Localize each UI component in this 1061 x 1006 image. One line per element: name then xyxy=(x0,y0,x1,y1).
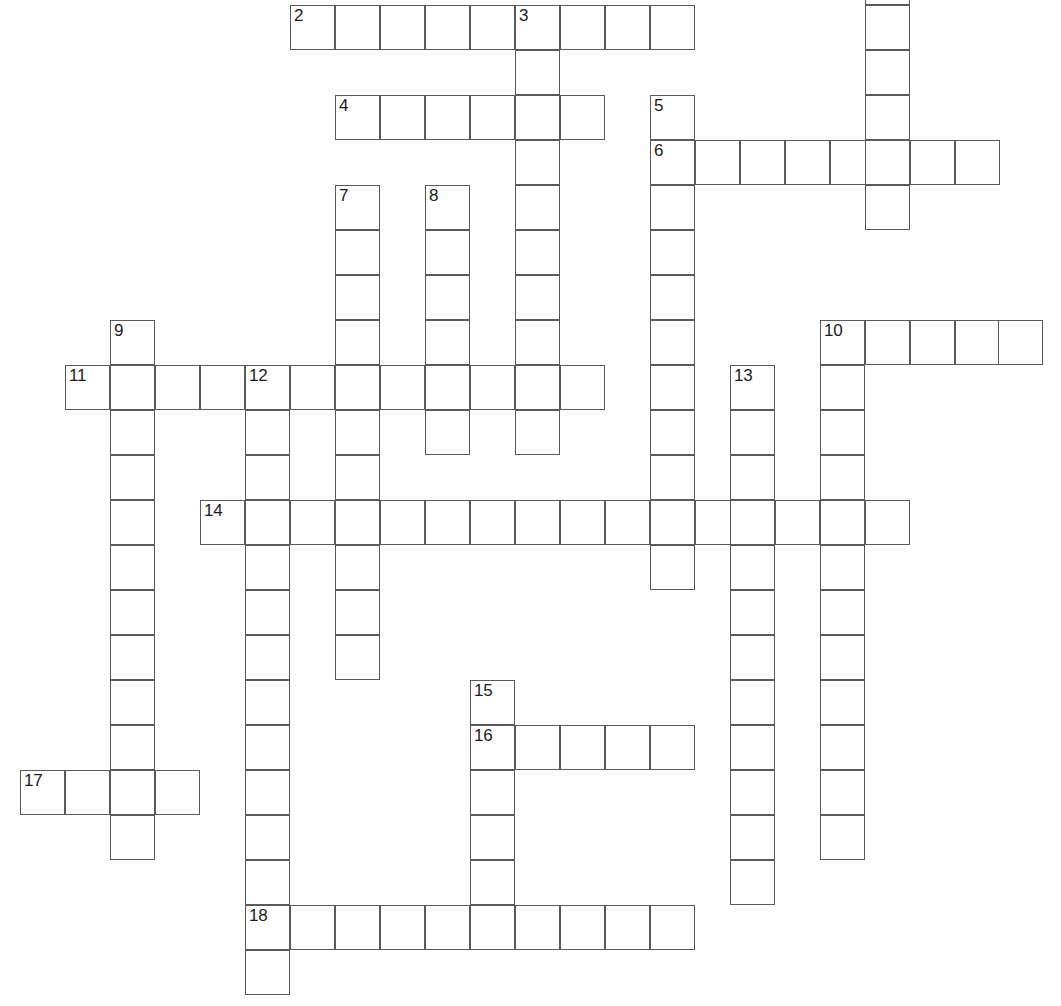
crossword-cell[interactable] xyxy=(515,905,560,950)
crossword-cell[interactable] xyxy=(110,635,155,680)
crossword-cell[interactable] xyxy=(730,815,775,860)
crossword-cell[interactable] xyxy=(245,725,290,770)
crossword-cell[interactable] xyxy=(335,365,380,410)
crossword-cell[interactable] xyxy=(820,725,865,770)
crossword-cell[interactable] xyxy=(820,680,865,725)
crossword-cell[interactable] xyxy=(605,905,650,950)
crossword-cell[interactable] xyxy=(335,545,380,590)
crossword-cell[interactable] xyxy=(425,365,470,410)
crossword-cell[interactable] xyxy=(245,680,290,725)
crossword-cell[interactable] xyxy=(730,545,775,590)
crossword-cell[interactable] xyxy=(335,5,380,50)
crossword-cell[interactable] xyxy=(605,500,650,545)
crossword-cell[interactable] xyxy=(425,5,470,50)
crossword-cell-start-14[interactable]: 14 xyxy=(200,500,245,545)
crossword-cell[interactable] xyxy=(245,860,290,905)
crossword-cell[interactable] xyxy=(820,365,865,410)
crossword-cell[interactable] xyxy=(820,455,865,500)
crossword-cell[interactable] xyxy=(470,95,515,140)
crossword-cell[interactable] xyxy=(865,500,910,545)
crossword-cell[interactable] xyxy=(515,725,560,770)
crossword-cell[interactable] xyxy=(110,455,155,500)
crossword-cell[interactable] xyxy=(820,590,865,635)
crossword-cell[interactable] xyxy=(515,410,560,455)
crossword-cell[interactable] xyxy=(470,815,515,860)
crossword-cell[interactable] xyxy=(650,185,695,230)
crossword-cell[interactable] xyxy=(425,410,470,455)
crossword-cell[interactable] xyxy=(245,770,290,815)
crossword-cell-start-11[interactable]: 11 xyxy=(65,365,110,410)
crossword-cell[interactable] xyxy=(955,140,1000,185)
crossword-cell[interactable] xyxy=(425,230,470,275)
crossword-cell[interactable] xyxy=(650,275,695,320)
crossword-cell[interactable] xyxy=(650,5,695,50)
crossword-cell[interactable] xyxy=(775,500,820,545)
crossword-cell[interactable] xyxy=(65,770,110,815)
crossword-cell[interactable] xyxy=(910,140,955,185)
crossword-cell[interactable] xyxy=(650,500,695,545)
crossword-cell[interactable] xyxy=(650,455,695,500)
crossword-cell[interactable] xyxy=(560,725,605,770)
crossword-cell-start-13[interactable]: 13 xyxy=(730,365,775,410)
crossword-cell[interactable] xyxy=(515,185,560,230)
crossword-cell[interactable] xyxy=(425,275,470,320)
crossword-cell[interactable] xyxy=(245,455,290,500)
crossword-cell-start-7[interactable]: 7 xyxy=(335,185,380,230)
crossword-cell[interactable] xyxy=(335,590,380,635)
crossword-cell[interactable] xyxy=(650,365,695,410)
crossword-cell[interactable] xyxy=(820,500,865,545)
crossword-cell[interactable] xyxy=(110,410,155,455)
crossword-cell[interactable] xyxy=(245,635,290,680)
crossword-cell[interactable] xyxy=(605,5,650,50)
crossword-cell[interactable] xyxy=(155,365,200,410)
crossword-cell[interactable] xyxy=(560,365,605,410)
crossword-cell[interactable] xyxy=(245,500,290,545)
crossword-cell[interactable] xyxy=(425,905,470,950)
crossword-cell[interactable] xyxy=(740,140,785,185)
crossword-cell-start-16[interactable]: 16 xyxy=(470,725,515,770)
crossword-cell[interactable] xyxy=(335,500,380,545)
crossword-cell-start-4[interactable]: 4 xyxy=(335,95,380,140)
crossword-cell[interactable] xyxy=(470,860,515,905)
crossword-cell[interactable] xyxy=(380,365,425,410)
crossword-cell[interactable] xyxy=(515,140,560,185)
crossword-cell-start-12[interactable]: 12 xyxy=(245,365,290,410)
crossword-cell[interactable] xyxy=(380,500,425,545)
crossword-cell-start-17[interactable]: 17 xyxy=(20,770,65,815)
crossword-cell[interactable] xyxy=(820,545,865,590)
crossword-cell[interactable] xyxy=(515,275,560,320)
crossword-cell[interactable] xyxy=(515,50,560,95)
crossword-cell[interactable] xyxy=(820,770,865,815)
crossword-cell[interactable] xyxy=(290,365,335,410)
crossword-cell[interactable] xyxy=(820,635,865,680)
crossword-cell[interactable] xyxy=(380,5,425,50)
crossword-cell[interactable] xyxy=(650,230,695,275)
crossword-cell[interactable] xyxy=(730,680,775,725)
crossword-cell[interactable] xyxy=(820,815,865,860)
crossword-cell[interactable] xyxy=(865,320,910,365)
crossword-cell[interactable] xyxy=(560,905,605,950)
crossword-cell-start-2[interactable]: 2 xyxy=(290,5,335,50)
crossword-cell[interactable] xyxy=(650,410,695,455)
crossword-cell-start-10[interactable]: 10 xyxy=(820,320,865,365)
crossword-cell[interactable] xyxy=(470,5,515,50)
crossword-cell[interactable] xyxy=(335,905,380,950)
crossword-cell[interactable] xyxy=(380,905,425,950)
crossword-cell[interactable] xyxy=(335,410,380,455)
crossword-cell[interactable] xyxy=(470,770,515,815)
crossword-cell[interactable] xyxy=(335,275,380,320)
crossword-cell[interactable] xyxy=(470,500,515,545)
crossword-cell-start-5[interactable]: 5 xyxy=(650,95,695,140)
crossword-cell[interactable] xyxy=(730,500,775,545)
crossword-cell[interactable] xyxy=(605,725,650,770)
crossword-cell[interactable] xyxy=(335,455,380,500)
crossword-cell[interactable] xyxy=(425,320,470,365)
crossword-cell[interactable] xyxy=(865,185,910,230)
crossword-cell[interactable] xyxy=(650,725,695,770)
crossword-cell[interactable] xyxy=(245,410,290,455)
crossword-cell[interactable] xyxy=(998,320,1043,365)
crossword-cell[interactable] xyxy=(560,5,605,50)
crossword-cell-start-8[interactable]: 8 xyxy=(425,185,470,230)
crossword-cell[interactable] xyxy=(910,320,955,365)
crossword-cell[interactable] xyxy=(560,500,605,545)
